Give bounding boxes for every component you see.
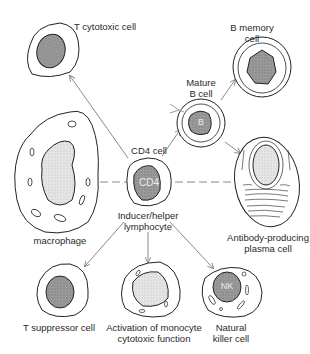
monocyte-label-2: cytotoxic function	[102, 333, 206, 344]
mature-b-label-1: Mature	[178, 77, 224, 88]
plasma-cell	[228, 132, 307, 232]
inducer-helper-label-1: Inducer/helper	[112, 210, 184, 221]
plasma-label-2: plasma cell	[220, 243, 310, 254]
b-nucleus-text: B	[193, 117, 209, 127]
mature-b-label-2: B cell	[178, 88, 224, 99]
macrophage-cell	[15, 111, 99, 233]
nk-label-1: Natural	[205, 322, 257, 333]
plasma-label-1: Antibody-producing	[220, 232, 310, 243]
b-memory-label-2: cell	[224, 33, 280, 44]
nk-nucleus-text: NK	[218, 281, 236, 291]
t-suppressor-cell	[37, 264, 88, 317]
b-memory-cell	[233, 37, 291, 97]
monocyte-label-1: Activation of monocyte	[102, 322, 206, 333]
cd4-nucleus-text: CD4	[136, 177, 162, 188]
nk-cell	[202, 267, 262, 317]
inducer-helper-label-2: lymphocyte	[112, 221, 184, 232]
monocyte-cell	[122, 262, 181, 317]
b-memory-label-1: B memory	[224, 22, 280, 33]
macrophage-label: macrophage	[10, 235, 110, 246]
t-cytotoxic-label: T cytotoxic cell	[74, 21, 136, 32]
cd4-label: CD4 cell	[126, 145, 172, 156]
nk-label-2: killer cell	[205, 333, 257, 344]
t-suppressor-label: T suppressor cell	[14, 322, 104, 333]
t-cytotoxic-cell	[27, 23, 79, 77]
